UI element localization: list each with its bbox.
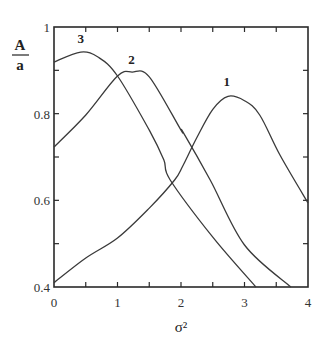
y-tick-label: 0.6 xyxy=(34,193,51,208)
curves xyxy=(54,52,308,287)
x-axis-label: σ² xyxy=(175,319,188,335)
y-tick-label: 0.4 xyxy=(34,280,51,295)
y-axis-label: A a xyxy=(12,37,29,73)
x-tick-label: 1 xyxy=(114,295,121,310)
y-label-denominator: a xyxy=(16,57,24,73)
curve-labels: 123 xyxy=(77,31,230,88)
line-chart: 012340.40.60.81 123 A a σ² xyxy=(0,0,326,350)
x-tick-label: 4 xyxy=(305,295,312,310)
axis-ticks xyxy=(54,27,308,287)
x-tick-label: 3 xyxy=(241,295,248,310)
plot-area-border xyxy=(54,27,308,287)
y-tick-label: 1 xyxy=(44,20,51,35)
curve-label-1: 1 xyxy=(223,74,230,89)
curve-label-2: 2 xyxy=(128,52,135,67)
curve-1 xyxy=(54,96,308,283)
x-tick-label: 0 xyxy=(51,295,58,310)
curve-2 xyxy=(54,71,291,287)
y-tick-label: 0.8 xyxy=(34,107,50,122)
y-label-numerator: A xyxy=(15,37,26,53)
x-tick-label: 2 xyxy=(178,295,185,310)
curve-label-3: 3 xyxy=(77,31,84,46)
plot-frame xyxy=(54,27,308,287)
